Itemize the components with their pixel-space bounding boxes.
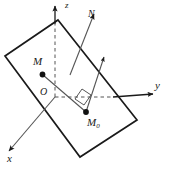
y-axis-label: y	[155, 80, 160, 91]
normal-vector-at-m0	[86, 57, 104, 112]
figure-canvas	[0, 0, 172, 169]
y-axis-solid-segment	[113, 94, 153, 97]
point-m0-marker	[83, 109, 89, 115]
point-m0-subscript: 0	[96, 122, 100, 130]
normal-vector-N	[70, 14, 94, 75]
point-m-marker	[40, 72, 46, 78]
point-m0-base: M	[87, 116, 96, 128]
x-axis	[9, 97, 55, 151]
point-m0-label: M0	[87, 117, 100, 128]
origin-label: O	[40, 87, 47, 97]
plane-parallelogram	[5, 20, 137, 157]
point-m-label: M	[33, 56, 42, 67]
geometry-figure: z N M O M0 y x	[0, 0, 172, 169]
z-axis-label: z	[65, 1, 69, 10]
segment-m-to-m0	[43, 75, 86, 112]
x-axis-label: x	[7, 153, 12, 164]
normal-vector-label: N	[88, 9, 95, 19]
